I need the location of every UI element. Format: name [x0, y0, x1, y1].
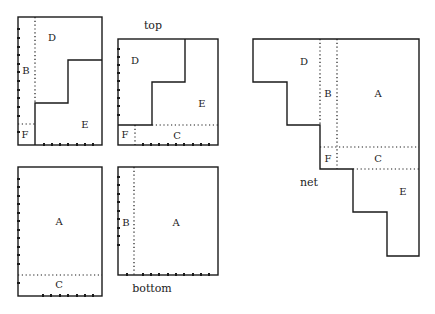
label-a: A [373, 88, 382, 99]
panel-border [118, 167, 218, 275]
label-a: A [171, 217, 180, 228]
label-d: D [48, 32, 56, 43]
staircase-boundary [35, 60, 102, 145]
label-d: D [131, 55, 139, 66]
label-c: C [55, 279, 63, 290]
label-f: F [122, 129, 129, 140]
label-d: D [300, 56, 308, 67]
caption-top: top [144, 19, 162, 32]
panel-border [18, 167, 102, 296]
label-f: F [22, 129, 29, 140]
label-f: F [325, 153, 332, 164]
panel-top-left: D B F E [17, 17, 102, 146]
panel-net: D B A F C E [253, 39, 419, 256]
panel-bottom: B A [117, 167, 218, 276]
label-e: E [198, 98, 205, 109]
panel-border [18, 17, 102, 145]
label-b: B [22, 65, 29, 76]
label-a: A [54, 216, 63, 227]
staircase-boundary [118, 39, 185, 125]
label-b: B [324, 88, 331, 99]
panel-bottom-left: A C [17, 167, 102, 297]
label-e: E [81, 119, 88, 130]
label-b: B [122, 217, 129, 228]
label-e: E [399, 186, 406, 197]
label-c: C [374, 153, 382, 164]
label-c: C [173, 130, 181, 141]
caption-bottom: bottom [132, 282, 172, 295]
caption-net: net [300, 176, 319, 189]
panel-top: D E F C [117, 39, 218, 146]
matrix-decomposition-diagram: D B F E top D E F C [0, 0, 435, 314]
